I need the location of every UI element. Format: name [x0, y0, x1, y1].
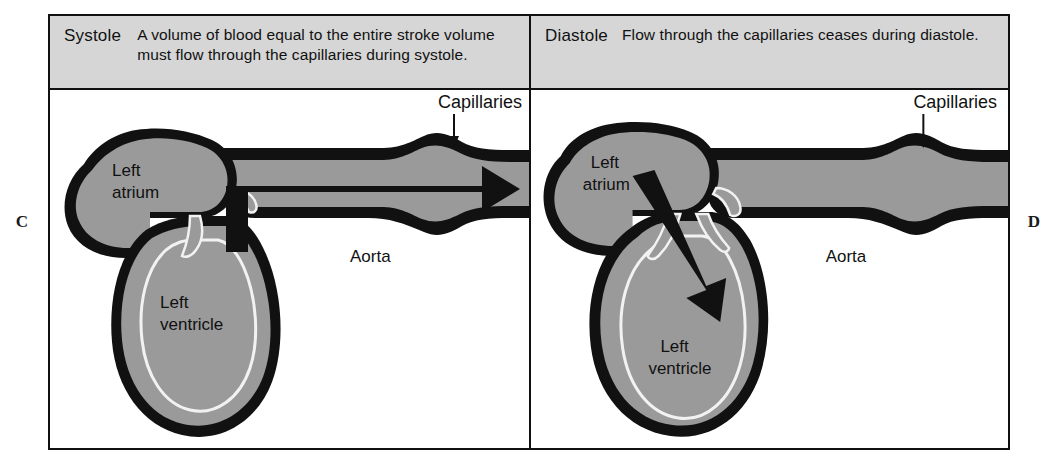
label-left-ventricle-systole-line2: ventricle	[160, 315, 223, 334]
diagram-systole: Capillaries Left atrium Left ventricle A…	[50, 90, 529, 448]
panel-diastole: Diastole Flow through the capillaries ce…	[529, 16, 1008, 448]
phase-label-systole: Systole	[64, 25, 121, 46]
caption-band-systole: Systole A volume of blood equal to the e…	[50, 16, 529, 90]
figure-frame: Systole A volume of blood equal to the e…	[48, 14, 1010, 450]
label-capillaries-systole: Capillaries	[438, 92, 522, 112]
caption-text-systole: A volume of blood equal to the entire st…	[137, 25, 519, 64]
label-capillaries-diastole: Capillaries	[913, 92, 997, 112]
phase-label-diastole: Diastole	[545, 25, 608, 46]
diagram-diastole: Capillaries Left atrium Left ventricle A…	[531, 90, 1008, 448]
label-left-atrium-systole-line2: atrium	[112, 183, 159, 202]
label-aorta-diastole: Aorta	[826, 247, 867, 266]
caption-band-diastole: Diastole Flow through the capillaries ce…	[531, 16, 1008, 90]
label-left-atrium-diastole-line2: atrium	[583, 175, 630, 194]
left-ventricle-chamber-diastole	[621, 236, 745, 418]
caption-text-diastole: Flow through the capillaries ceases duri…	[622, 25, 998, 45]
label-left-ventricle-systole-line1: Left	[160, 293, 189, 312]
label-left-ventricle-diastole-line2: ventricle	[649, 359, 712, 378]
panel-letter-c: C	[2, 212, 42, 232]
panel-systole: Systole A volume of blood equal to the e…	[50, 16, 529, 448]
label-aorta-systole: Aorta	[350, 247, 391, 266]
label-left-atrium-diastole-line1: Left	[591, 153, 620, 172]
panel-letter-d: D	[1014, 212, 1054, 232]
label-left-atrium-systole-line1: Left	[112, 161, 141, 180]
label-left-ventricle-diastole-line1: Left	[660, 337, 689, 356]
figure-root: C D Systole A volume of blood equal to t…	[0, 0, 1057, 464]
